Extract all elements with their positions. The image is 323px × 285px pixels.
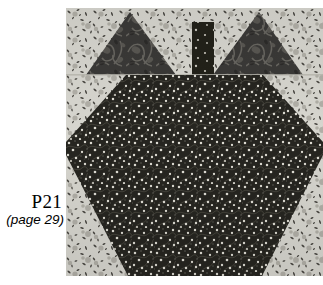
quilt-block-image: [66, 8, 323, 276]
figure-code: P21: [0, 192, 64, 212]
quilt-block-svg: [66, 8, 323, 276]
figure-page-reference: (page 29): [0, 212, 64, 227]
scan-shading-overlay: [66, 8, 323, 276]
figure-caption: P21 (page 29): [0, 192, 64, 227]
